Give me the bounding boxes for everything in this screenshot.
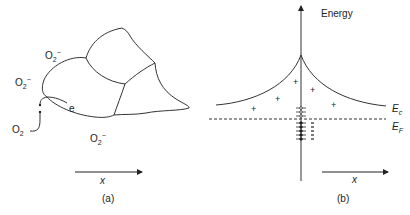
o2-label: O2 <box>12 124 24 137</box>
caption-b: (b) <box>337 193 349 204</box>
panel-b: Energy Ec EF + + + + + <box>209 6 404 204</box>
plus-sign: + <box>293 77 298 87</box>
left-grain-boundary <box>42 58 114 118</box>
plus-sign: + <box>310 85 315 95</box>
arrow-tip-dot <box>39 111 41 113</box>
plus-sign: + <box>251 104 256 114</box>
o2-minus-top-label: O2− <box>45 49 61 63</box>
grain-boundary-inner-2 <box>125 63 155 84</box>
ef-label: EF <box>392 121 404 134</box>
positive-charges: + + + + + <box>251 77 336 114</box>
plus-sign: + <box>275 94 280 104</box>
ec-label: Ec <box>392 103 403 116</box>
electron-label: e <box>69 103 75 114</box>
grain-boundary-inner-3 <box>114 84 125 115</box>
x-axis-label-a: x <box>99 175 106 186</box>
surface-link <box>40 97 47 105</box>
o2-adsorption-arrow <box>30 112 40 131</box>
top-grain-boundary <box>86 28 155 63</box>
o2-minus-bottom-label: O2− <box>90 132 106 146</box>
o2-minus-left-label: O2− <box>15 76 31 90</box>
grain-cluster <box>42 28 189 117</box>
panel-a: O2− O2− O2− O2 e x (a) <box>12 28 189 204</box>
caption-a: (a) <box>102 193 114 204</box>
filled-surface-states <box>296 122 306 141</box>
energy-axis-label: Energy <box>321 8 353 19</box>
empty-surface-states <box>296 107 306 118</box>
x-axis-label-b: x <box>351 174 358 185</box>
grain-boundary-inner-1 <box>86 58 125 84</box>
figure-canvas: O2− O2− O2− O2 e x (a) Energy Ec EF <box>0 0 410 215</box>
right-grain-boundary <box>114 63 189 115</box>
negative-charges <box>311 123 314 139</box>
plus-sign: + <box>331 100 336 110</box>
